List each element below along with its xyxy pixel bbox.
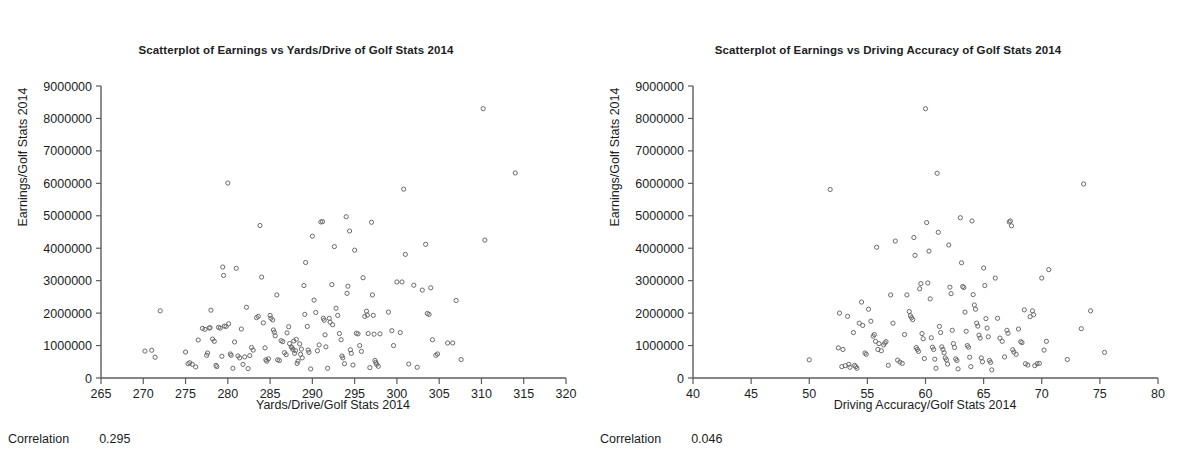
scatter-point <box>143 349 147 353</box>
scatter-point <box>370 293 374 297</box>
scatter-point <box>158 309 162 313</box>
scatter-point <box>980 360 984 364</box>
scatter-point <box>861 323 865 327</box>
scatter-point <box>302 283 306 287</box>
scatter-point <box>913 253 917 257</box>
scatter-point <box>430 338 434 342</box>
scatter-point <box>298 342 302 346</box>
scatter-point <box>886 363 890 367</box>
scatter-point <box>261 321 265 325</box>
y-tick-label: 3000000 <box>635 274 684 288</box>
scatter-point <box>391 343 395 347</box>
scatter-point <box>859 300 863 304</box>
correlation-label: Correlation <box>600 432 661 446</box>
correlation-row: Correlation0.295 <box>8 432 130 446</box>
scatter-point <box>275 293 279 297</box>
scatter-point <box>390 329 394 333</box>
scatter-point <box>451 341 455 345</box>
scatter-point <box>990 368 994 372</box>
scatter-point <box>982 266 986 270</box>
scatter-point <box>969 365 973 369</box>
scatter-point <box>150 348 154 352</box>
scatter-point <box>337 331 341 335</box>
scatter-point <box>315 349 319 353</box>
scatter-point <box>246 366 250 370</box>
scatter-point <box>347 229 351 233</box>
scatter-point <box>918 287 922 291</box>
x-axis-label: Driving Accuracy/Golf Stats 2014 <box>692 398 1158 412</box>
y-axis-label: Earnings/Golf Stats 2014 <box>16 42 30 272</box>
scatter-point <box>1009 224 1013 228</box>
scatter-point <box>353 248 357 252</box>
correlation-row: Correlation0.046 <box>600 432 722 446</box>
y-tick-label: 4000000 <box>43 242 92 256</box>
scatter-point <box>902 332 906 336</box>
scatter-panel-earnings-vs-driving-accuracy: Scatterplot of Earnings vs Driving Accur… <box>592 0 1184 457</box>
scatter-point <box>378 332 382 336</box>
plot-area: 0100000020000003000000400000050000006000… <box>0 0 592 457</box>
scatter-point <box>971 293 975 297</box>
scatter-point <box>248 354 252 358</box>
scatter-point <box>907 309 911 313</box>
scatter-point <box>1102 350 1106 354</box>
y-tick-label: 0 <box>677 372 684 386</box>
plot-area: 0100000020000003000000400000050000006000… <box>592 0 1184 457</box>
scatter-point <box>351 363 355 367</box>
scatter-point <box>984 317 988 321</box>
scatter-point <box>921 337 925 341</box>
y-tick-label: 9000000 <box>635 80 684 94</box>
scatter-point <box>1042 348 1046 352</box>
y-tick-label: 2000000 <box>43 307 92 321</box>
scatter-point <box>317 343 321 347</box>
y-tick-label: 5000000 <box>635 209 684 223</box>
scatter-point <box>194 365 198 369</box>
scatter-point <box>1022 308 1026 312</box>
correlation-label: Correlation <box>8 432 69 446</box>
scatter-point <box>446 341 450 345</box>
scatter-point <box>359 349 363 353</box>
scatter-point <box>1032 313 1036 317</box>
y-axis-label: Earnings/Golf Stats 2014 <box>608 42 622 272</box>
y-tick-label: 4000000 <box>635 242 684 256</box>
scatter-point <box>372 332 376 336</box>
scatter-point <box>241 362 245 366</box>
scatter-point <box>303 312 307 316</box>
y-tick-label: 3000000 <box>43 274 92 288</box>
scatter-point <box>851 330 855 334</box>
scatter-point <box>828 187 832 191</box>
y-tick-label: 6000000 <box>635 177 684 191</box>
scatter-point <box>985 326 989 330</box>
scatter-point <box>402 187 406 191</box>
scatter-point <box>1044 339 1048 343</box>
scatter-point <box>937 324 941 328</box>
scatter-point <box>1016 327 1020 331</box>
scatter-point <box>215 365 219 369</box>
scatter-point <box>952 345 956 349</box>
scatter-point <box>922 356 926 360</box>
scatter-point <box>891 321 895 325</box>
scatter-point <box>420 288 424 292</box>
scatter-point <box>226 181 230 185</box>
scatter-point <box>1065 357 1069 361</box>
scatter-point <box>325 366 329 370</box>
scatter-point <box>221 273 225 277</box>
scatter-point <box>926 281 930 285</box>
scatter-point <box>905 293 909 297</box>
scatter-point <box>837 311 841 315</box>
scatter-point <box>1020 341 1024 345</box>
scatter-point <box>889 293 893 297</box>
scatter-point <box>304 260 308 264</box>
scatter-point <box>239 327 243 331</box>
scatter-point <box>968 355 972 359</box>
scatter-point <box>963 310 967 314</box>
scatter-point <box>1008 219 1012 223</box>
scatter-point <box>1047 268 1051 272</box>
scatter-point <box>950 328 954 332</box>
scatter-point <box>323 333 327 337</box>
scatter-point <box>232 340 236 344</box>
scatter-point <box>929 336 933 340</box>
scatter-point <box>429 286 433 290</box>
scatter-point <box>920 331 924 335</box>
y-tick-label: 7000000 <box>43 144 92 158</box>
scatter-point <box>995 316 999 320</box>
